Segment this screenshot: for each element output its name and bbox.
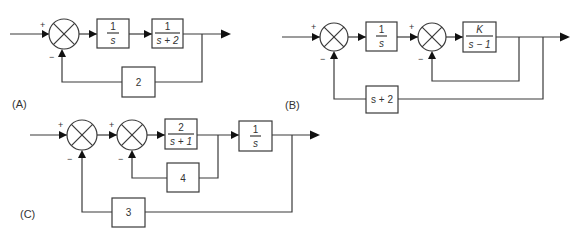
output-arrow-icon [310, 131, 320, 140]
block-integrator: 1 s [239, 121, 272, 151]
minus-sign: − [118, 154, 123, 164]
summing-junction [49, 19, 79, 49]
arrow-icon [58, 49, 66, 57]
svg-text:s + 1: s + 1 [170, 136, 192, 147]
svg-text:1: 1 [110, 21, 116, 32]
svg-text:2: 2 [136, 77, 142, 88]
svg-text:s: s [253, 138, 258, 149]
block-plant: K s − 1 [463, 22, 496, 52]
summing-junction-2 [117, 120, 147, 150]
svg-text:4: 4 [180, 173, 186, 184]
svg-text:s + 2: s + 2 [157, 35, 179, 46]
block-plant: 2 s + 1 [165, 119, 197, 149]
svg-text:2: 2 [178, 122, 184, 133]
outer-feedback-block: 3 [112, 198, 145, 227]
minus-sign: − [49, 52, 54, 62]
svg-text:3: 3 [126, 207, 132, 218]
plus-sign: + [58, 120, 63, 130]
summing-junction-1 [320, 23, 348, 51]
diagram-label-b: (B) [285, 99, 300, 111]
feedback-block: s + 2 [366, 86, 398, 113]
arrow-icon [231, 131, 239, 139]
arrow-icon [358, 33, 366, 41]
summing-junction-2 [418, 23, 446, 51]
plus-sign: + [40, 20, 45, 30]
arrow-icon [157, 131, 165, 139]
output-arrow-icon [560, 33, 570, 42]
svg-text:1: 1 [165, 21, 171, 32]
plus-sign: + [311, 22, 316, 32]
plus-sign: + [409, 22, 414, 32]
svg-text:1: 1 [253, 124, 259, 135]
block-diagrams-figure: + − 1 s 1 s + 2 2 (A) [0, 0, 583, 241]
arrow-icon [428, 51, 436, 59]
arrow-icon [312, 33, 320, 41]
minus-sign: − [67, 154, 72, 164]
feedback-block: 2 [122, 67, 155, 97]
arrow-icon [42, 30, 49, 38]
diagram-label-a: (A) [12, 98, 27, 110]
svg-text:s − 1: s − 1 [469, 39, 491, 50]
svg-text:1: 1 [379, 24, 385, 35]
arrow-icon [144, 30, 152, 38]
arrow-icon [89, 30, 97, 38]
output-arrow-icon [221, 30, 231, 39]
arrow-icon [410, 33, 418, 41]
summing-junction-1 [67, 120, 97, 150]
svg-text:s: s [111, 35, 116, 46]
arrow-icon [455, 33, 463, 41]
arrow-icon [59, 131, 67, 139]
block-plant: 1 s + 2 [152, 19, 183, 48]
block-integrator: 1 s [366, 22, 397, 51]
arrow-icon [330, 51, 338, 59]
plus-sign: + [109, 120, 114, 130]
arrow-icon [78, 150, 86, 158]
minus-sign: − [320, 54, 325, 64]
diagram-a: + − 1 s 1 s + 2 2 (A) [10, 19, 231, 110]
block-integrator: 1 s [97, 19, 129, 48]
diagram-b: + − 1 s + − K s − 1 [282, 22, 570, 113]
svg-text:s: s [379, 38, 384, 49]
diagram-c: + − + − 2 s + 1 1 s [20, 119, 320, 227]
arrow-icon [128, 150, 136, 158]
diagram-label-c: (C) [20, 208, 35, 220]
arrow-icon [109, 131, 117, 139]
svg-text:s + 2: s + 2 [371, 94, 393, 105]
minus-sign: − [418, 54, 423, 64]
inner-feedback-block: 4 [167, 163, 199, 192]
